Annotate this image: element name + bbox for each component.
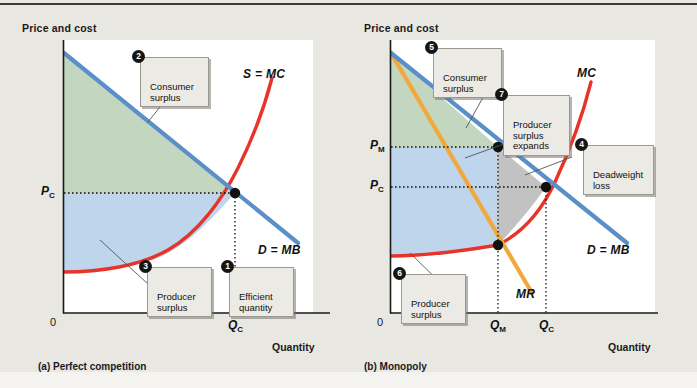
callout-number-2: 2 (132, 50, 145, 63)
callout-number-6: 6 (393, 267, 406, 280)
callout-producer-surplus-a: 3 Producer surplus (147, 267, 212, 317)
panel-a-quantity-tick-label: QC (228, 318, 243, 334)
demand-curve-label-a: D = MB (258, 243, 301, 257)
panel-a-origin-label: 0 (50, 316, 56, 328)
supply-curve-label-a: S = MC (243, 67, 285, 81)
mr-equals-mc-point-b (493, 240, 503, 250)
panel-a-price-tick-label: PC (41, 184, 55, 200)
callout-consumer-surplus-a: 2 Consumer surplus (140, 57, 209, 107)
economics-figure: Price and cost (0, 0, 697, 388)
callout-text: Producer surplus (157, 291, 196, 313)
callout-deadweight-loss-b: 4 Deadweight loss (583, 145, 654, 195)
panel-perfect-competition: Price and cost (0, 0, 350, 388)
callout-number-4: 4 (575, 138, 588, 151)
callout-number-3: 3 (139, 260, 152, 273)
callout-producer-surplus-expands-b: 7 Producer surplus expands (503, 95, 570, 156)
callout-text: Consumer surplus (443, 72, 487, 94)
callout-text: Consumer surplus (150, 81, 194, 103)
callout-text: Efficient quantity (239, 291, 273, 313)
panel-b-price-monopoly-tick-label: PM (370, 138, 385, 154)
competitive-equilibrium-point-b (541, 182, 551, 192)
callout-consumer-surplus-b: 5 Consumer surplus (433, 48, 502, 98)
panel-a-x-axis-title: Quantity (272, 341, 315, 353)
panel-b-price-competitive-tick-label: PC (370, 178, 384, 194)
panel-a-caption: (a) Perfect competition (38, 361, 146, 372)
marginal-revenue-curve-label-b: MR (516, 287, 535, 301)
producer-surplus-region-b (391, 147, 498, 256)
callout-number-5: 5 (425, 41, 438, 54)
callout-efficient-quantity-a: 1 Efficient quantity (229, 267, 294, 317)
callout-producer-surplus-b: 6 Producer surplus (401, 274, 466, 324)
marginal-cost-curve-label-b: MC (577, 66, 596, 80)
panel-b-quantity-monopoly-tick-label: QM (490, 318, 506, 334)
demand-curve-label-b: D = MB (587, 243, 630, 257)
callout-text: Producer surplus expands (513, 119, 552, 151)
callout-number-7: 7 (495, 88, 508, 101)
callout-text: Producer surplus (411, 298, 450, 320)
equilibrium-point-a (230, 188, 240, 198)
panel-b-origin-label: 0 (377, 316, 383, 328)
callout-text: Deadweight loss (593, 169, 643, 191)
panel-b-x-axis-title: Quantity (608, 341, 651, 353)
panel-b-caption: (b) Monopoly (364, 361, 427, 372)
panel-monopoly: Price and cost (350, 0, 697, 388)
panel-b-quantity-competitive-tick-label: QC (539, 318, 554, 334)
callout-number-1: 1 (221, 260, 234, 273)
